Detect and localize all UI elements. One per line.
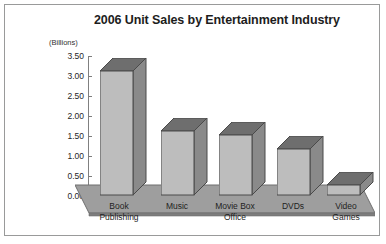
category-label-line2: Games <box>308 212 384 223</box>
y-axis-tick-mark <box>89 136 92 137</box>
chart-title: 2006 Unit Sales by Entertainment Industr… <box>67 13 367 27</box>
y-axis-line <box>88 56 89 196</box>
y-axis-tick-label: 2.00 <box>50 111 84 121</box>
y-axis-tick-label: 1.50 <box>50 131 84 141</box>
x-axis-category-label: VideoGames <box>308 201 384 222</box>
y-axis-tick-mark <box>89 176 92 177</box>
y-axis-tick-label: 3.50 <box>50 51 84 61</box>
y-axis-tick-mark <box>89 96 92 97</box>
chart-plot-area: 2006 Unit Sales by Entertainment Industr… <box>5 5 379 235</box>
y-axis-tick-mark <box>89 56 92 57</box>
category-label-line1: Video <box>308 201 384 212</box>
chart-frame: 2006 Unit Sales by Entertainment Industr… <box>4 4 380 236</box>
y-axis-unit-label: (Billions) <box>49 38 78 47</box>
category-label-line2: Office <box>197 212 273 223</box>
y-axis-tick-mark <box>89 156 92 157</box>
category-label-line2: Publishing <box>81 212 157 223</box>
y-axis-tick-label: 2.50 <box>50 91 84 101</box>
y-axis-tick-mark <box>89 76 92 77</box>
y-axis-tick-label: 0.50 <box>50 171 84 181</box>
y-axis-tick-label: 1.00 <box>50 151 84 161</box>
y-axis-tick-label: 3.00 <box>50 71 84 81</box>
y-axis-tick-mark <box>89 116 92 117</box>
